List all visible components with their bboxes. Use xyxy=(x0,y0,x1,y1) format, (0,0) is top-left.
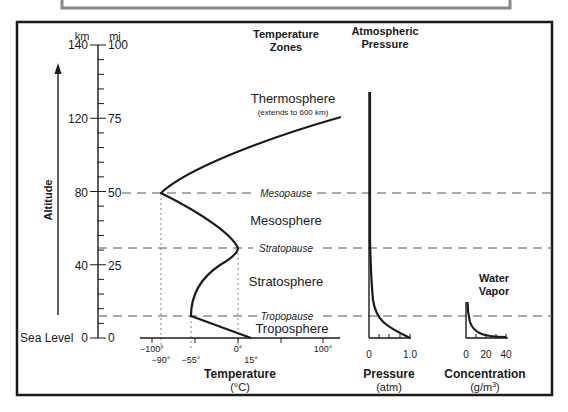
diagram-frame xyxy=(17,22,552,395)
temperature-major-label: −100° xyxy=(140,344,164,354)
title-box xyxy=(62,0,510,8)
concentration-axis-unit: (g/m3) xyxy=(470,381,500,393)
temperature-marker-label: −55° xyxy=(182,355,201,365)
water-vapor-label-2: 40 xyxy=(500,349,512,360)
mesopause-label: Mesopause xyxy=(260,188,312,199)
mi-tick-label: 25 xyxy=(108,259,122,273)
concentration-axis-title: Concentration xyxy=(444,367,525,381)
altitude-title: Altitude xyxy=(42,180,54,221)
water-vapor-label-0: 0 xyxy=(463,349,469,360)
mi-tick-label: 75 xyxy=(108,112,122,126)
mi-tick-label: 50 xyxy=(108,186,122,200)
pressure-label-0: 0 xyxy=(366,349,372,360)
temperature-major-label: 100° xyxy=(314,344,333,354)
mi-tick-label: 100 xyxy=(108,38,128,52)
km-tick-label: 140 xyxy=(68,38,88,52)
troposphere-label: Troposphere xyxy=(255,321,328,336)
temperature-marker-label: −90° xyxy=(152,355,171,365)
km-tick-label: 0 xyxy=(81,331,88,345)
thermosphere-note: (extends to 600 km) xyxy=(258,108,329,117)
pressure-header-2: Pressure xyxy=(361,38,408,50)
stratosphere-label: Stratosphere xyxy=(249,274,323,289)
temperature-marker-label: 15° xyxy=(244,355,258,365)
temperature-zones-header: Temperature xyxy=(253,28,319,40)
pressure-label-1: 1.0 xyxy=(403,349,417,360)
water-vapor-header: Water xyxy=(479,272,510,284)
atmosphere-diagram: Altitude km mi 140100120758050402500 Sea… xyxy=(0,0,568,412)
thermosphere-label: Thermosphere xyxy=(251,91,336,106)
sea-level-label: Sea Level xyxy=(20,331,73,345)
mi-tick-label: 0 xyxy=(108,331,115,345)
water-vapor-label-1: 20 xyxy=(480,349,492,360)
km-tick-label: 40 xyxy=(75,259,89,273)
temperature-axis-unit: (°C) xyxy=(230,381,250,393)
pressure-axis-unit: (atm) xyxy=(376,381,402,393)
km-tick-label: 80 xyxy=(75,186,89,200)
stratopause-label: Stratopause xyxy=(259,243,313,254)
water-vapor-header-2: Vapor xyxy=(479,285,510,297)
temperature-axis-title: Temperature xyxy=(204,367,276,381)
mesosphere-label: Mesosphere xyxy=(250,213,322,228)
pressure-axis-title: Pressure xyxy=(363,367,415,381)
temperature-zones-header-2: Zones xyxy=(270,41,302,53)
km-tick-label: 120 xyxy=(68,112,88,126)
pressure-header: Atmospheric xyxy=(351,25,418,37)
temperature-major-label: 0° xyxy=(234,344,243,354)
